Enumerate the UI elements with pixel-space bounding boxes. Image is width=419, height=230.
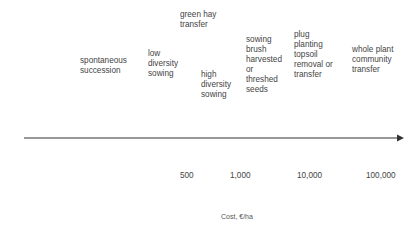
tick-1000: 1,000 [230, 171, 251, 181]
cost-axis-arrow [0, 0, 419, 230]
axis-title: Cost, €/ha [221, 213, 253, 220]
tick-100000: 100,000 [366, 171, 396, 181]
tick-10000: 10,000 [297, 171, 322, 181]
tick-500: 500 [180, 171, 194, 181]
